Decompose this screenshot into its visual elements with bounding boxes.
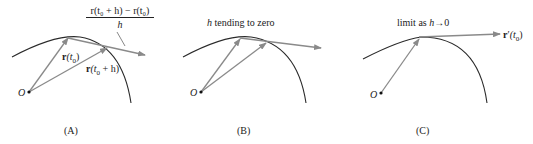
difference-quotient-label: r(t₀ + h) − r(t₀) h [86, 6, 154, 30]
label-r-t0: r(t0) [62, 52, 79, 65]
origin-dot-c [379, 91, 382, 94]
title-b: h tending to zero [207, 18, 274, 28]
panel-b [183, 37, 321, 103]
vector-1-b [201, 39, 240, 92]
derivative-label: r′(t0) [503, 30, 523, 43]
panel-c [363, 34, 500, 103]
vector-r-t0-c [381, 39, 419, 93]
title-c: limit as h→0 [397, 18, 449, 28]
vector-2-b [201, 43, 266, 92]
caption-c: (C) [416, 125, 429, 136]
label-r-t0-plus-h: r(t0 + h) [86, 64, 119, 77]
origin-dot-b [199, 90, 202, 93]
secant-vector-a [68, 38, 145, 55]
tangent-vector-c [419, 34, 500, 37]
difference-quotient-denominator: h [86, 18, 154, 30]
difference-quotient-numerator: r(t₀ + h) − r(t₀) [86, 6, 154, 18]
origin-label-b: O [190, 88, 197, 98]
caption-a: (A) [64, 125, 78, 136]
origin-label-c: O [370, 90, 377, 100]
origin-label-a: O [18, 88, 25, 98]
panel-a [12, 32, 145, 103]
leader-line-a [117, 32, 125, 46]
secant-vector-b [240, 38, 321, 48]
caption-b: (B) [237, 125, 250, 136]
origin-dot-a [27, 90, 30, 93]
